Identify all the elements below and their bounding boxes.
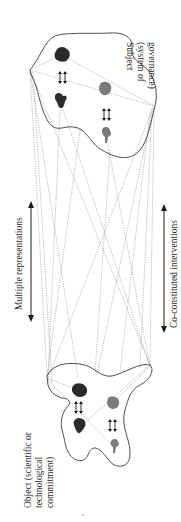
subject-label-line1: Subject — [125, 42, 135, 71]
co-constituted-interventions-arrow: Co-constituted interventions — [161, 204, 179, 333]
diagram-canvas: Subject (system of governance) Multiple … — [0, 0, 181, 522]
dark-shape-icon — [72, 383, 87, 397]
gray-shape-icon — [107, 397, 119, 409]
gray-shape-icon — [102, 127, 111, 143]
subject-label-line2: (system of — [135, 42, 146, 83]
object-label: Object (scientific or technological comm… — [23, 430, 56, 508]
subject-region: Subject (system of governance) — [30, 33, 157, 158]
dark-shape-icon — [55, 47, 70, 62]
connection-lines — [30, 70, 154, 385]
subject-label-line3: governance) — [146, 42, 157, 89]
double-arrow-icon — [58, 71, 67, 84]
double-arrow-icon — [108, 419, 117, 432]
co-constituted-interventions-label: Co-constituted interventions — [169, 220, 179, 328]
subject-object-diagram: Subject (system of governance) Multiple … — [0, 0, 181, 522]
multiple-representations-label: Multiple representations — [14, 217, 24, 310]
stray-mark — [82, 514, 84, 516]
subject-label: Subject (system of governance) — [125, 42, 157, 89]
dark-shape-icon — [74, 418, 86, 433]
object-label-line3: commitment) — [45, 457, 56, 508]
object-label-line2: technological — [34, 456, 44, 508]
dark-shape-icon — [55, 93, 67, 108]
object-label-line1: Object (scientific or — [23, 431, 34, 508]
gray-shape-icon — [111, 439, 119, 453]
double-arrow-icon — [102, 108, 111, 121]
object-outline — [47, 363, 152, 466]
object-region: Object (scientific or technological comm… — [23, 363, 152, 508]
multiple-representations-arrow: Multiple representations — [14, 201, 34, 322]
